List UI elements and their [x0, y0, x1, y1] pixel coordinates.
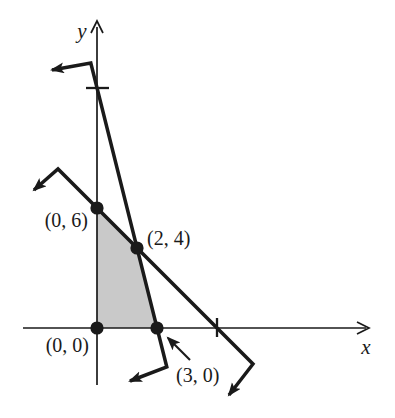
feasible-region-chart: (0, 0)(0, 6)(2, 4)(3, 0)xy: [0, 0, 395, 418]
vertex-label-0: (0, 0): [46, 334, 89, 357]
vertex-label-3: (3, 0): [176, 364, 219, 387]
figure-canvas: (0, 0)(0, 6)(2, 4)(3, 0)xy: [0, 0, 395, 418]
vertex-dot-2-4: [130, 241, 143, 254]
vertex-dot-0-6: [90, 201, 103, 214]
x-axis-label: x: [360, 335, 371, 359]
vertex-dot-3-0: [150, 321, 163, 334]
vertex-label-1: (0, 6): [45, 209, 88, 232]
vertex-label-2: (2, 4): [147, 227, 190, 250]
feasible-region: [97, 208, 157, 328]
point-3-0-callout-arrow: [168, 338, 190, 360]
vertex-dot-0-0: [90, 321, 103, 334]
y-axis-label: y: [75, 19, 87, 43]
